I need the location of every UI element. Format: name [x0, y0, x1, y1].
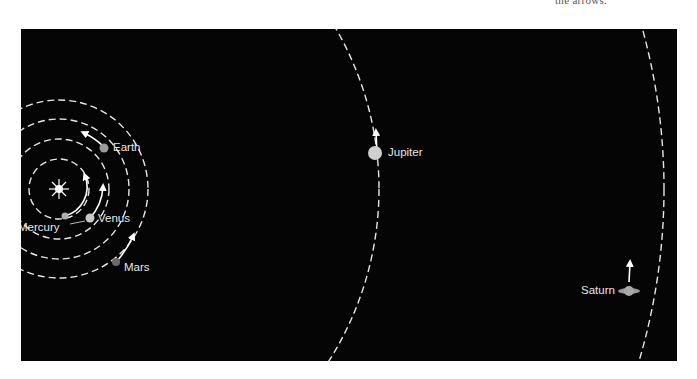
- figure-caption: the arrows.: [555, 0, 607, 6]
- earth-orbit: [21, 119, 129, 259]
- venus-label: Venus: [98, 212, 130, 224]
- saturn-icon: [618, 286, 640, 296]
- mercury-icon: [62, 213, 69, 220]
- saturn-orbit: [21, 29, 664, 361]
- venus-icon: [86, 214, 95, 223]
- orbit-canvas: [21, 29, 677, 361]
- jupiter-orbit: [21, 29, 379, 361]
- mars-label: Mars: [124, 261, 150, 273]
- earth-label: Earth: [113, 141, 141, 153]
- solar-system-diagram: Mercury Venus Earth Mars Jupiter Saturn: [21, 29, 677, 361]
- mercury-label: Mercury: [21, 221, 60, 233]
- mars-icon: [112, 258, 120, 266]
- jupiter-icon: [368, 146, 382, 160]
- saturn-label: Saturn: [581, 284, 615, 296]
- sun-icon: [49, 179, 69, 199]
- earth-icon: [100, 144, 109, 153]
- jupiter-label: Jupiter: [388, 146, 423, 158]
